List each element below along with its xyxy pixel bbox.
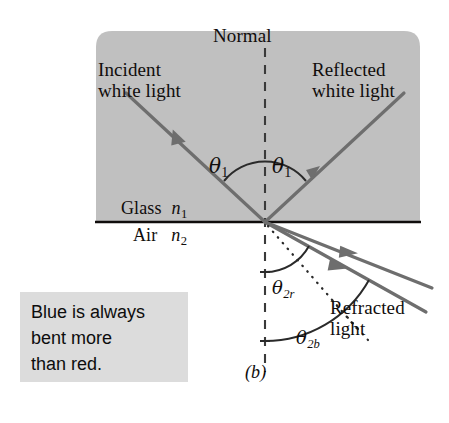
- callout-text: Blue is always bent more than red.: [31, 299, 191, 377]
- theta-refracted-red-subscript: 2r: [283, 287, 295, 301]
- theta-refracted-red-label: θ2r: [272, 277, 294, 302]
- refracted-ray-blue-arrowhead: [328, 257, 349, 271]
- air-index-subscript: 2: [180, 234, 187, 248]
- theta-refracted-blue-subscript: 2b: [307, 337, 320, 351]
- theta-refracted-blue-symbol: θ: [296, 327, 307, 348]
- refracted-light-label: Refracted light: [330, 298, 405, 339]
- refracted-light-text: Refracted light: [330, 297, 405, 339]
- theta-reflected-subscript: 1: [284, 165, 291, 180]
- reflected-light-text: Reflected white light: [312, 59, 395, 101]
- theta-refracted-red-symbol: θ: [272, 277, 283, 298]
- theta-refracted-blue-label: θ2b: [296, 327, 320, 352]
- theta-reflected-symbol: θ: [272, 154, 284, 178]
- incident-light-label: Incident white light: [98, 60, 181, 101]
- theta-reflected-label: θ1: [272, 154, 291, 181]
- glass-text: Glass: [121, 198, 162, 218]
- glass-medium-label: Glassn1: [121, 199, 187, 221]
- reflected-light-label: Reflected white light: [312, 60, 395, 101]
- theta-incident-symbol: θ: [209, 154, 221, 178]
- theta-incident-subscript: 1: [221, 165, 228, 180]
- callout-box: Blue is always bent more than red.: [20, 292, 188, 382]
- theta-incident-label: θ1: [209, 154, 228, 181]
- figure-caption: (b): [245, 363, 266, 382]
- optics-refraction-figure: Normal Incident white light Reflected wh…: [0, 0, 449, 423]
- theta2r-arc: [265, 246, 309, 272]
- normal-label: Normal: [213, 26, 272, 47]
- air-medium-label: Airn2: [133, 226, 187, 248]
- air-text: Air: [133, 225, 157, 245]
- glass-index-symbol: n: [172, 198, 181, 218]
- incident-light-text: Incident white light: [98, 59, 181, 101]
- glass-index-subscript: 1: [181, 207, 188, 221]
